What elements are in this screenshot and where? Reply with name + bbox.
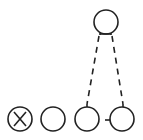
node-b3 xyxy=(75,107,99,131)
diagram-canvas xyxy=(0,0,143,140)
edge-top-b3 xyxy=(87,36,99,104)
node-b2 xyxy=(41,107,65,131)
node-top xyxy=(94,10,118,34)
node-b4 xyxy=(110,107,134,131)
edge-top-b4 xyxy=(112,36,123,104)
